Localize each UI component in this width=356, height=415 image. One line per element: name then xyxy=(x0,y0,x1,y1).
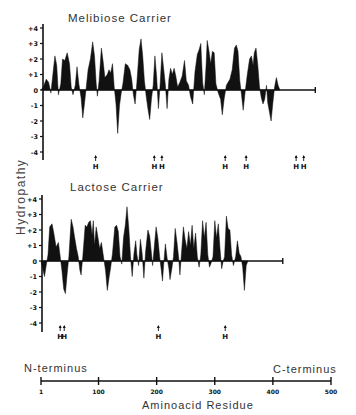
y-tick-label: 0 xyxy=(33,87,38,95)
helix-marker: H xyxy=(155,325,161,341)
helix-marker-label: H xyxy=(159,163,165,171)
x-axis-label: Aminoacid Residue xyxy=(142,399,254,411)
lactose-hydropathy-plot: +4+3+2+10-1-2-3-4HHHH xyxy=(27,195,283,341)
y-tick-label: -1 xyxy=(31,102,39,110)
y-tick-label: 0 xyxy=(32,258,37,266)
y-tick-label: -3 xyxy=(31,133,38,141)
residue-tick-label: 100 xyxy=(92,388,105,395)
y-tick-label: +1 xyxy=(28,71,38,79)
residue-axis: 1100200300400500 xyxy=(39,377,337,395)
helix-marker: H xyxy=(243,155,249,171)
helix-marker: H xyxy=(151,155,157,171)
arrow-up-icon xyxy=(295,155,298,158)
helix-marker: H xyxy=(301,155,307,171)
y-tick-label: +2 xyxy=(28,56,38,64)
y-tick-label: +3 xyxy=(28,40,38,48)
helix-marker: H xyxy=(222,325,228,341)
helix-marker: H xyxy=(293,155,299,171)
residue-tick-label: 400 xyxy=(267,388,280,395)
y-tick-label: +4 xyxy=(28,25,38,33)
helix-marker-label: H xyxy=(301,163,307,171)
y-tick-label: +4 xyxy=(27,196,37,204)
helix-marker-label: H xyxy=(151,163,157,171)
melibiose-hydropathy-plot: +4+3+2+10-1-2-3-4HHHHHHH xyxy=(28,24,315,171)
y-tick-label: -1 xyxy=(30,273,38,281)
y-tick-label: -4 xyxy=(31,149,39,157)
helix-marker-label: H xyxy=(243,163,249,171)
hydropathy-profile xyxy=(41,39,280,133)
melibiose-plot-title: Melibiose Carrier xyxy=(68,12,172,24)
arrow-up-icon xyxy=(94,155,97,158)
helix-marker: H xyxy=(61,325,67,341)
helix-marker-label: H xyxy=(293,163,299,171)
residue-tick-label: 500 xyxy=(325,388,338,395)
arrow-up-icon xyxy=(160,155,163,158)
helix-marker: H xyxy=(159,155,165,171)
y-tick-label: -2 xyxy=(30,289,37,297)
helix-marker-label: H xyxy=(93,163,99,171)
arrow-up-icon xyxy=(157,325,160,328)
y-tick-label: +1 xyxy=(27,242,37,250)
arrow-up-icon xyxy=(245,155,248,158)
arrow-up-icon xyxy=(224,155,227,158)
y-tick-label: -4 xyxy=(30,320,38,328)
arrow-up-icon xyxy=(63,325,66,328)
helix-marker-label: H xyxy=(222,163,228,171)
y-tick-label: +2 xyxy=(27,227,37,235)
y-tick-label: +3 xyxy=(27,211,37,219)
arrow-up-icon xyxy=(302,155,305,158)
helix-marker-label: H xyxy=(61,333,67,341)
helix-marker-label: H xyxy=(222,333,228,341)
hydropathy-profile xyxy=(41,207,248,294)
arrow-up-icon xyxy=(153,155,156,158)
arrow-up-icon xyxy=(59,325,62,328)
y-axis-label: Hydropathy xyxy=(14,165,28,235)
helix-marker: H xyxy=(93,155,99,171)
y-tick-label: -2 xyxy=(31,118,38,126)
n-terminus-label: N-terminus xyxy=(24,362,88,374)
residue-tick-label: 200 xyxy=(150,388,163,395)
c-terminus-label: C-terminus xyxy=(273,363,337,375)
helix-marker-label: H xyxy=(155,333,161,341)
arrow-up-icon xyxy=(224,325,227,328)
residue-tick-label: 1 xyxy=(39,388,43,395)
residue-tick-label: 300 xyxy=(209,388,222,395)
y-tick-label: -3 xyxy=(30,304,37,312)
helix-marker: H xyxy=(222,155,228,171)
lactose-plot-title: Lactose Carrier xyxy=(70,181,164,193)
hydropathy-figure: +4+3+2+10-1-2-3-4HHHHHHH+4+3+2+10-1-2-3-… xyxy=(0,0,356,415)
hydropathy-plots: +4+3+2+10-1-2-3-4HHHHHHH+4+3+2+10-1-2-3-… xyxy=(0,0,356,415)
